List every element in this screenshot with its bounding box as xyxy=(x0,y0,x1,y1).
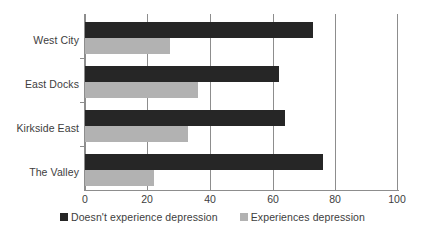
bar-chart: West City East Docks Kirkside East The V… xyxy=(0,0,425,236)
x-tick-label-100: 100 xyxy=(388,193,406,205)
bar-group-kirkside-east xyxy=(85,110,398,150)
bar-kirkside-east-no-depression xyxy=(85,110,285,126)
y-axis-labels: West City East Docks Kirkside East The V… xyxy=(0,14,79,190)
bar-east-docks-depression xyxy=(85,82,198,98)
y-label-west-city: West City xyxy=(0,34,79,46)
x-tick-40 xyxy=(210,186,211,191)
legend-item-depression[interactable]: Experiences depression xyxy=(240,211,365,223)
legend-label-depression: Experiences depression xyxy=(251,211,365,223)
chart-legend: Doesn't experience depression Experience… xyxy=(0,211,425,223)
y-tick-2 xyxy=(80,146,85,147)
x-axis-line xyxy=(84,190,399,191)
legend-swatch-icon-no-depression xyxy=(60,213,68,221)
y-tick-1 xyxy=(80,102,85,103)
x-tick-0 xyxy=(85,186,86,191)
x-tick-100 xyxy=(397,186,398,191)
x-tick-60 xyxy=(273,186,274,191)
bar-east-docks-no-depression xyxy=(85,66,279,82)
y-label-the-valley: The Valley xyxy=(0,166,79,178)
bar-west-city-depression xyxy=(85,38,170,54)
x-tick-label-40: 40 xyxy=(204,193,216,205)
bar-group-east-docks xyxy=(85,66,398,106)
legend-swatch-icon-depression xyxy=(240,213,248,221)
bar-group-west-city xyxy=(85,22,398,62)
plot-area xyxy=(85,14,398,190)
bar-group-the-valley xyxy=(85,154,398,194)
bar-the-valley-no-depression xyxy=(85,154,323,170)
x-tick-label-20: 20 xyxy=(141,193,153,205)
y-label-kirkside-east: Kirkside East xyxy=(0,122,79,134)
x-tick-label-0: 0 xyxy=(82,193,88,205)
bar-west-city-no-depression xyxy=(85,22,313,38)
x-tick-20 xyxy=(147,186,148,191)
bar-the-valley-depression xyxy=(85,170,154,186)
x-tick-label-80: 80 xyxy=(329,193,341,205)
x-tick-label-60: 60 xyxy=(267,193,279,205)
bar-kirkside-east-depression xyxy=(85,126,188,142)
legend-item-no-depression[interactable]: Doesn't experience depression xyxy=(60,211,218,223)
x-tick-80 xyxy=(335,186,336,191)
y-tick-0 xyxy=(80,58,85,59)
legend-label-no-depression: Doesn't experience depression xyxy=(71,211,218,223)
y-label-east-docks: East Docks xyxy=(0,78,79,90)
